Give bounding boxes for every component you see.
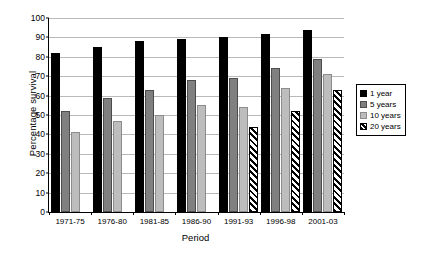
legend-item-label: 1 year — [370, 89, 392, 98]
bar-s1 — [177, 39, 186, 212]
legend-item-label: 10 years — [370, 111, 401, 120]
x-tick-label: 1996-98 — [266, 217, 295, 226]
x-tick-mark — [344, 212, 345, 215]
bar-group — [49, 18, 91, 212]
y-tick-label: 10 — [36, 188, 45, 198]
hatched-square-swatch — [360, 123, 367, 130]
bar-s1 — [135, 41, 144, 212]
x-tick-label: 2001-03 — [308, 217, 337, 226]
legend-item: 1 year — [360, 88, 401, 99]
bar-s10 — [323, 74, 332, 212]
bar-group — [91, 18, 133, 212]
bar-s1 — [93, 47, 102, 212]
x-tick-mark — [302, 212, 303, 215]
x-tick-mark — [218, 212, 219, 215]
bar-s5 — [313, 59, 322, 212]
bar-group — [133, 18, 175, 212]
bar-group — [218, 18, 260, 212]
y-tick-label: 80 — [36, 52, 45, 62]
bar-s10 — [239, 107, 248, 212]
y-tick-label: 30 — [36, 149, 45, 159]
y-tick-label: 90 — [36, 32, 45, 42]
bar-group — [302, 18, 344, 212]
survival-bar-chart: Percentage survival 01020304050607080901… — [0, 0, 422, 255]
bar-s10 — [155, 115, 164, 212]
bar-s10 — [197, 105, 206, 212]
y-tick-label: 0 — [40, 207, 45, 217]
x-tick-mark — [175, 212, 176, 215]
y-tick-label: 20 — [36, 168, 45, 178]
bar-s10 — [71, 132, 80, 212]
bar-s5 — [271, 68, 280, 212]
x-tick-label: 1981-85 — [140, 217, 169, 226]
bar-s5 — [229, 78, 238, 212]
x-tick-label: 1986-90 — [182, 217, 211, 226]
x-tick-label: 1991-93 — [224, 217, 253, 226]
y-tick-label: 70 — [36, 71, 45, 81]
bar-s5 — [103, 98, 112, 212]
bar-s5 — [61, 111, 70, 212]
bar-s1 — [261, 34, 270, 212]
x-axis-title: Period — [48, 232, 343, 243]
bar-s1 — [303, 30, 312, 212]
legend-item-label: 20 years — [370, 122, 401, 131]
bar-s5 — [187, 80, 196, 212]
bar-s10 — [281, 88, 290, 212]
x-tick-mark — [49, 212, 50, 215]
x-tick-mark — [260, 212, 261, 215]
legend-item-label: 5 years — [370, 100, 396, 109]
x-tick-mark — [91, 212, 92, 215]
bar-s10 — [113, 121, 122, 212]
bar-s1 — [51, 53, 60, 212]
y-tick-label: 60 — [36, 91, 45, 101]
bar-group — [175, 18, 217, 212]
bar-s20 — [291, 111, 300, 212]
x-tick-mark — [133, 212, 134, 215]
dark-gray-square-swatch — [360, 101, 367, 108]
legend-item: 20 years — [360, 121, 401, 132]
x-tick-label: 1971-75 — [55, 217, 84, 226]
legend-item: 5 years — [360, 99, 401, 110]
light-gray-square-swatch — [360, 112, 367, 119]
bar-group — [260, 18, 302, 212]
y-tick-label: 40 — [36, 129, 45, 139]
legend-item: 10 years — [360, 110, 401, 121]
chart-legend: 1 year5 years10 years20 years — [356, 84, 406, 136]
y-tick-label: 50 — [36, 110, 45, 120]
y-tick-label: 100 — [31, 13, 45, 23]
black-square-swatch — [360, 90, 367, 97]
bar-s20 — [333, 90, 342, 212]
x-tick-label: 1976-80 — [98, 217, 127, 226]
bar-s1 — [219, 37, 228, 212]
bar-s5 — [145, 90, 154, 212]
bar-s20 — [249, 127, 258, 212]
plot-area: 01020304050607080901001971-751976-801981… — [48, 18, 344, 213]
